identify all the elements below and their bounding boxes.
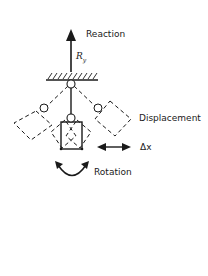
reaction-label: Reaction bbox=[86, 30, 125, 39]
delta-x-label: Δx bbox=[140, 143, 151, 152]
main-box bbox=[60, 122, 84, 150]
pendulum-diagram bbox=[0, 0, 208, 276]
displacement-double-arrow-icon bbox=[97, 143, 131, 151]
reaction-arrow-icon bbox=[66, 29, 76, 72]
reaction-symbol: Ry bbox=[76, 52, 86, 63]
displacement-label: Displacement bbox=[139, 114, 201, 123]
reaction-symbol-subscript: y bbox=[83, 56, 86, 63]
rotation-label: Rotation bbox=[94, 168, 132, 177]
rotation-arc-arrow-icon bbox=[55, 161, 89, 176]
reaction-symbol-letter: R bbox=[76, 51, 83, 61]
fixed-support-icon bbox=[46, 73, 98, 80]
